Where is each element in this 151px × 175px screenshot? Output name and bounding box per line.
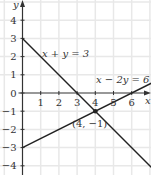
x-tick-label: 4: [92, 97, 98, 108]
y-arrow-icon: [20, 0, 25, 7]
y-tick-label: −1: [2, 106, 17, 117]
y-tick-label: 2: [10, 51, 16, 62]
y-axis-label: y: [12, 0, 19, 10]
y-tick-label: 3: [10, 33, 16, 44]
y-tick-label: −4: [2, 160, 17, 171]
y-tick-label: 4: [10, 15, 16, 26]
x-tick-label: 6: [129, 97, 135, 108]
line2-label: x − 2y = 6: [96, 74, 150, 85]
x-tick-label: 5: [110, 97, 116, 108]
y-tick-label: −3: [2, 142, 17, 153]
y-tick-label: 0: [10, 88, 16, 99]
intersection-label: (4, −1): [72, 118, 107, 129]
y-tick-label: 1: [10, 69, 16, 80]
y-tick-label: −2: [2, 124, 17, 135]
graph: y x x + y = 3 x − 2y = 6 (4, −1) 1234564…: [0, 0, 151, 175]
intersection-point: [93, 109, 98, 114]
x-tick-label: 2: [56, 97, 62, 108]
x-axis-label: x: [145, 95, 151, 106]
x-tick-label: 3: [74, 97, 80, 108]
x-tick-label: 1: [38, 97, 44, 108]
line1-label: x + y = 3: [42, 48, 89, 59]
